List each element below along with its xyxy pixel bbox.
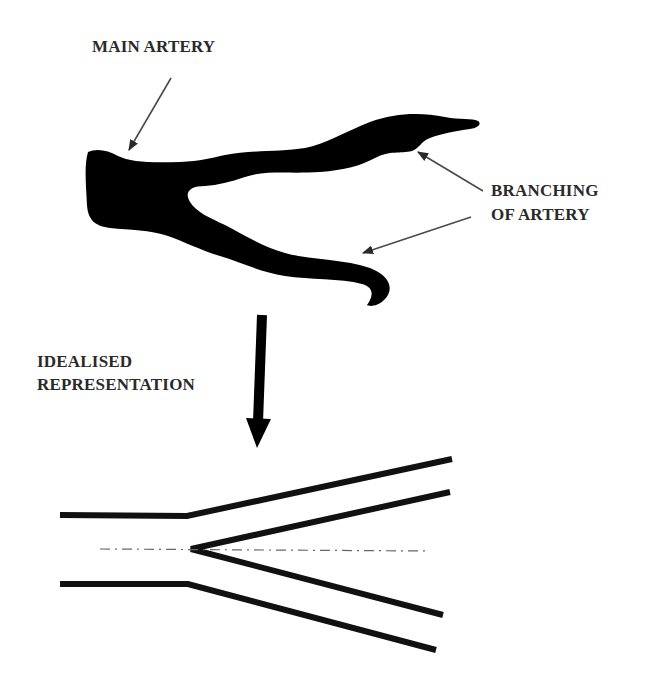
branching-label-line1: BRANCHING <box>491 181 599 200</box>
idealised-label-line2: REPRESENTATION <box>37 375 196 394</box>
transformation-arrow <box>246 315 271 448</box>
real-artery-silhouette <box>86 114 480 306</box>
arrow-shaft <box>258 315 262 422</box>
lower-outer-wall <box>60 584 436 650</box>
arrow-head-icon <box>246 418 271 448</box>
lower-branch-pointer-arrow <box>363 217 471 253</box>
idealised-label-line1: IDEALISED <box>37 352 132 371</box>
centerline <box>100 549 430 551</box>
main-artery-label: MAIN ARTERY <box>92 37 215 56</box>
idealised-model <box>60 459 452 650</box>
upper-branch-pointer-arrow <box>418 152 483 191</box>
real-artery-shape <box>86 114 480 306</box>
branching-label-line2: OF ARTERY <box>491 205 590 224</box>
artery-diagram: MAIN ARTERY BRANCHING OF ARTERY IDEALISE… <box>0 0 651 684</box>
main-artery-pointer-arrow <box>129 78 171 150</box>
